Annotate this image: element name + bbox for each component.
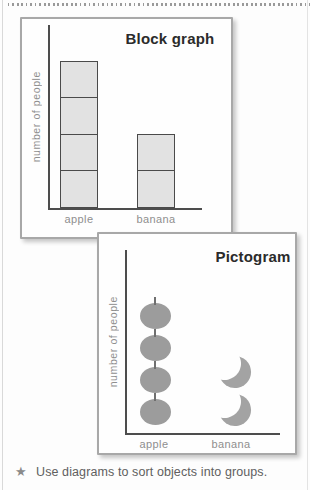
footnote: ★ Use diagrams to sort objects into grou… (15, 464, 305, 480)
pictogram-column-banana (217, 355, 253, 427)
block-graph-card: Block graph number of people apple banan… (20, 17, 233, 239)
dotted-divider (8, 3, 310, 6)
block-graph-x-label-apple: apple (65, 213, 94, 225)
block-graph-x-label-banana: banana (136, 213, 175, 225)
block-graph-y-axis-label: number of people (30, 71, 42, 162)
page-left-rule (2, 0, 3, 490)
banana-icon (215, 352, 255, 392)
apple-icon (140, 399, 171, 425)
block-cell (137, 134, 175, 172)
pictogram-plot-area: apple banana (125, 250, 280, 435)
block-cell (137, 170, 175, 208)
block-cell (60, 97, 98, 135)
block-cell (60, 61, 98, 99)
block-graph-ylabel-wrap: number of people (28, 25, 44, 208)
pictogram-x-label-banana: banana (211, 438, 250, 450)
page-right-rule (307, 0, 308, 490)
pictogram-ylabel-wrap: number of people (105, 250, 121, 433)
banana-icon (215, 390, 255, 430)
pictogram-column-apple (139, 303, 171, 425)
footnote-text: Use diagrams to sort objects into groups… (36, 464, 267, 480)
apple-icon (140, 367, 171, 393)
pictogram-card: Pictogram number of people apple banana (97, 232, 297, 455)
block-graph-plot-area: apple banana (48, 25, 202, 210)
block-cell (60, 170, 98, 208)
block-graph-bar-apple (60, 61, 98, 209)
block-graph-bar-banana (137, 134, 175, 209)
star-bullet-icon: ★ (15, 464, 27, 480)
apple-icon (140, 335, 171, 361)
pictogram-y-axis-label: number of people (107, 296, 119, 387)
pictogram-x-label-apple: apple (140, 438, 169, 450)
block-cell (60, 134, 98, 172)
apple-icon (140, 303, 171, 329)
